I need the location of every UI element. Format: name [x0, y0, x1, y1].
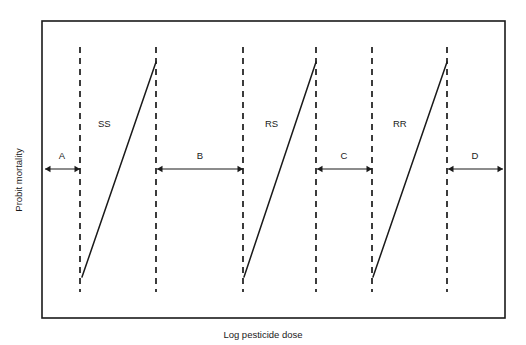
- genotype-label-ss: SS: [98, 118, 111, 129]
- interval-label-c: C: [341, 150, 348, 161]
- x-axis-title: Log pesticide dose: [223, 329, 302, 340]
- interval-label-b: B: [197, 150, 203, 161]
- figure-container: ABCD SSRSRR Probit mortality Log pestici…: [0, 0, 526, 345]
- interval-label-a: A: [59, 150, 66, 161]
- interval-label-d: D: [472, 150, 479, 161]
- probit-mortality-chart: ABCD SSRSRR Probit mortality Log pestici…: [0, 0, 526, 345]
- y-axis-title: Probit mortality: [13, 148, 24, 212]
- genotype-label-rr: RR: [393, 118, 407, 129]
- genotype-label-rs: RS: [265, 118, 278, 129]
